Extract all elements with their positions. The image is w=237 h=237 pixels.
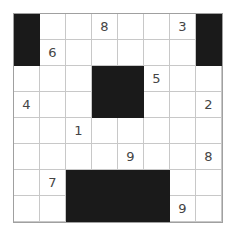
given-cell: 8 (92, 14, 118, 40)
blocked-cell (14, 40, 40, 66)
blocked-cell (14, 14, 40, 40)
blocked-cell (92, 66, 118, 92)
blocked-cell (66, 196, 92, 222)
empty-cell[interactable] (196, 118, 222, 144)
given-cell: 7 (40, 170, 66, 196)
empty-cell[interactable] (40, 118, 66, 144)
empty-cell[interactable] (66, 66, 92, 92)
empty-cell[interactable] (92, 144, 118, 170)
empty-cell[interactable] (170, 66, 196, 92)
empty-cell[interactable] (144, 92, 170, 118)
blocked-cell (92, 196, 118, 222)
given-cell: 3 (170, 14, 196, 40)
given-cell: 9 (170, 196, 196, 222)
given-cell: 8 (196, 144, 222, 170)
blocked-cell (196, 40, 222, 66)
given-cell: 4 (14, 92, 40, 118)
blocked-cell (196, 14, 222, 40)
empty-cell[interactable] (170, 170, 196, 196)
blocked-cell (66, 170, 92, 196)
blocked-cell (144, 170, 170, 196)
empty-cell[interactable] (170, 144, 196, 170)
empty-cell[interactable] (92, 118, 118, 144)
empty-cell[interactable] (66, 40, 92, 66)
empty-cell[interactable] (92, 40, 118, 66)
empty-cell[interactable] (196, 66, 222, 92)
empty-cell[interactable] (14, 196, 40, 222)
empty-cell[interactable] (66, 14, 92, 40)
empty-cell[interactable] (118, 40, 144, 66)
empty-cell[interactable] (144, 144, 170, 170)
empty-cell[interactable] (40, 196, 66, 222)
empty-cell[interactable] (118, 14, 144, 40)
empty-cell[interactable] (14, 118, 40, 144)
empty-cell[interactable] (40, 66, 66, 92)
empty-cell[interactable] (14, 170, 40, 196)
puzzle-grid: 83654219879 (13, 13, 223, 223)
given-cell: 5 (144, 66, 170, 92)
blocked-cell (118, 92, 144, 118)
empty-cell[interactable] (196, 170, 222, 196)
empty-cell[interactable] (14, 66, 40, 92)
blocked-cell (92, 170, 118, 196)
blocked-cell (92, 92, 118, 118)
blocked-cell (118, 170, 144, 196)
empty-cell[interactable] (170, 92, 196, 118)
empty-cell[interactable] (144, 14, 170, 40)
empty-cell[interactable] (66, 92, 92, 118)
empty-cell[interactable] (40, 14, 66, 40)
empty-cell[interactable] (196, 196, 222, 222)
empty-cell[interactable] (170, 40, 196, 66)
empty-cell[interactable] (144, 40, 170, 66)
given-cell: 1 (66, 118, 92, 144)
empty-cell[interactable] (170, 118, 196, 144)
empty-cell[interactable] (66, 144, 92, 170)
given-cell: 9 (118, 144, 144, 170)
empty-cell[interactable] (118, 118, 144, 144)
empty-cell[interactable] (40, 92, 66, 118)
blocked-cell (118, 66, 144, 92)
blocked-cell (144, 196, 170, 222)
empty-cell[interactable] (144, 118, 170, 144)
blocked-cell (118, 196, 144, 222)
empty-cell[interactable] (40, 144, 66, 170)
given-cell: 2 (196, 92, 222, 118)
empty-cell[interactable] (14, 144, 40, 170)
given-cell: 6 (40, 40, 66, 66)
